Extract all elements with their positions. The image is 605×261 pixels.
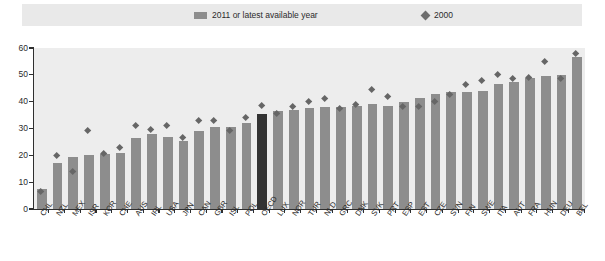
bar-lux (273, 111, 283, 209)
bar-can (194, 131, 204, 209)
bar-usa (163, 137, 173, 209)
bar-prt (383, 106, 393, 209)
y-axis-tick (29, 47, 34, 48)
bar-fra (525, 78, 535, 209)
chart-plot-area (34, 48, 585, 209)
y-axis-tick (29, 155, 34, 156)
bar-aus (131, 138, 141, 209)
bar-swe (478, 91, 488, 209)
legend-entry-bars: 2011 or latest available year (194, 4, 318, 26)
bar-grc (336, 107, 346, 209)
y-axis-tick-label: 60 (2, 44, 28, 53)
legend-bars-label: 2011 or latest available year (212, 10, 318, 20)
y-axis-tick-label: 40 (2, 97, 28, 106)
bar-gbr (210, 127, 220, 209)
y-axis-tick (29, 128, 34, 129)
bar-ita (494, 84, 504, 209)
bar-isr (84, 155, 94, 209)
bar-irl (147, 134, 157, 209)
bar-tur (305, 108, 315, 209)
bar-cze (431, 94, 441, 209)
chart-plot-frame (33, 48, 585, 209)
bar-dnk (352, 106, 362, 209)
y-axis: 0102030405060 (0, 0, 28, 261)
bar-svk (368, 104, 378, 209)
bar-aut (509, 82, 519, 209)
bar-oecd (257, 114, 267, 209)
bar-nld (320, 107, 330, 209)
bar-jpn (179, 141, 189, 209)
bar-fin (462, 92, 472, 209)
bar-nor (289, 110, 299, 209)
legend-points-label: 2000 (434, 10, 453, 20)
y-axis-tick-label: 10 (2, 178, 28, 187)
y-axis-tick (29, 74, 34, 75)
y-axis-tick-label: 50 (2, 70, 28, 79)
bar-pol (242, 123, 252, 209)
legend-bar-swatch-icon (194, 12, 207, 19)
bar-svn (446, 92, 456, 209)
legend-entry-points: 2000 (422, 4, 453, 26)
y-axis-tick-label: 0 (2, 205, 28, 214)
y-axis-tick-label: 20 (2, 151, 28, 160)
y-axis-tick-label: 30 (2, 124, 28, 133)
bar-esp (399, 102, 409, 209)
bar-deu (557, 75, 567, 209)
y-axis-tick (29, 182, 34, 183)
y-axis-tick (29, 208, 34, 209)
bar-est (415, 98, 425, 209)
bar-bel (572, 57, 582, 209)
y-axis-tick (29, 101, 34, 102)
bar-isl (226, 127, 236, 209)
legend-diamond-swatch-icon (421, 10, 431, 20)
bar-hun (541, 76, 551, 209)
chart-legend: 2011 or latest available year 2000 (22, 4, 582, 26)
